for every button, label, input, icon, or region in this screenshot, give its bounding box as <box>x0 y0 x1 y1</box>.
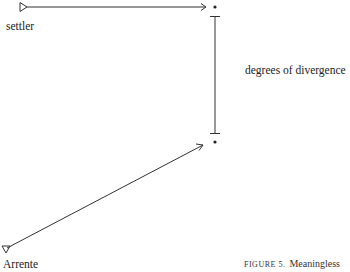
top-dot-icon <box>213 5 216 8</box>
caption-text: Meaningless <box>289 258 340 269</box>
settler-arrow <box>20 3 206 12</box>
arrente-arrow <box>2 144 203 253</box>
figure-number: FIGURE 5. <box>244 260 285 269</box>
arrente-label: Arrente <box>3 258 38 270</box>
divergence-label: degrees of divergence <box>245 64 346 76</box>
bottom-dot-icon <box>213 140 216 143</box>
diagram-canvas <box>0 0 350 272</box>
figure-caption: FIGURE 5.Meaningless <box>244 258 340 269</box>
triangle-right-icon <box>20 3 27 12</box>
divergence-bar <box>210 17 220 134</box>
settler-label: settler <box>6 20 34 32</box>
